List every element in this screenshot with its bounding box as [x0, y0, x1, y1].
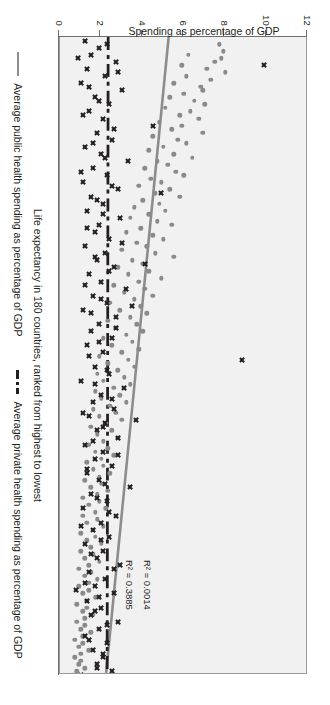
data-point-public — [167, 95, 172, 100]
data-point-public — [81, 591, 86, 596]
data-point-public — [105, 361, 110, 366]
data-point-private — [96, 594, 102, 600]
data-point-private — [88, 551, 94, 557]
data-point-private — [78, 80, 84, 86]
data-point-private — [84, 598, 90, 604]
data-point-public — [78, 531, 83, 536]
data-point-public — [109, 343, 114, 348]
plot-area — [59, 36, 307, 674]
legend-item-public[interactable]: Average public health spending as percen… — [12, 52, 24, 336]
data-point-private — [80, 410, 86, 416]
data-point-private — [82, 541, 88, 547]
data-point-private — [134, 417, 140, 423]
data-point-private — [94, 130, 100, 136]
data-point-public — [202, 102, 207, 107]
data-point-private — [88, 491, 94, 497]
data-point-private — [74, 587, 80, 593]
data-point-public — [76, 644, 81, 649]
data-point-public — [184, 74, 189, 79]
data-point-public — [72, 637, 77, 642]
data-point-public — [155, 159, 160, 164]
data-point-public — [95, 371, 100, 376]
data-point-public — [136, 347, 141, 352]
data-point-private — [90, 647, 96, 653]
data-point-private — [84, 466, 90, 472]
data-point-public — [132, 297, 137, 302]
legend-item-private[interactable]: Average private health spending as perce… — [12, 370, 24, 658]
data-point-private — [96, 45, 102, 51]
data-point-private — [111, 590, 117, 596]
data-point-public — [93, 449, 98, 454]
data-point-public — [118, 393, 123, 398]
data-point-public — [93, 534, 98, 539]
data-point-private — [115, 435, 121, 441]
data-point-public — [140, 198, 145, 203]
data-point-public — [184, 141, 189, 146]
data-point-private — [109, 396, 115, 402]
data-point-private — [115, 452, 121, 458]
data-point-public — [101, 464, 106, 469]
data-point-public — [161, 145, 166, 150]
data-point-private — [88, 328, 94, 334]
data-point-public — [83, 556, 88, 561]
data-point-public — [112, 386, 117, 391]
data-point-private — [84, 66, 90, 72]
data-point-public — [112, 283, 117, 288]
data-point-private — [92, 583, 98, 589]
data-point-private — [80, 307, 86, 313]
data-point-public — [89, 630, 94, 635]
data-point-private — [92, 381, 98, 387]
data-point-private — [88, 52, 94, 58]
data-point-public — [120, 350, 125, 355]
trend-line-public — [106, 37, 169, 673]
r2-annotation-private: R² = 0.0014 — [142, 560, 153, 610]
data-point-public — [124, 332, 129, 337]
data-point-private — [105, 41, 111, 47]
data-point-public — [213, 60, 218, 65]
chart-legend: Average public health spending as percen… — [12, 36, 24, 675]
data-point-public — [151, 233, 156, 238]
data-point-public — [130, 340, 135, 345]
data-point-private — [82, 243, 88, 249]
data-point-private — [103, 155, 109, 161]
data-point-public — [163, 208, 168, 213]
data-point-private — [98, 296, 104, 302]
data-point-private — [100, 424, 106, 430]
data-point-public — [89, 485, 94, 490]
data-point-public — [87, 503, 92, 508]
data-point-public — [176, 137, 181, 142]
data-point-private — [150, 123, 156, 129]
data-point-private — [76, 55, 82, 61]
data-point-private — [86, 413, 92, 419]
data-point-public — [124, 400, 129, 405]
data-point-private — [92, 229, 98, 235]
data-point-public — [147, 212, 152, 217]
data-point-private — [98, 392, 104, 398]
data-point-public — [153, 251, 158, 256]
data-point-public — [182, 91, 187, 96]
data-point-public — [132, 364, 137, 369]
data-point-private — [86, 353, 92, 359]
data-point-private — [96, 626, 102, 632]
data-point-private — [100, 211, 106, 217]
legend-label-public: Average public health spending as percen… — [12, 83, 24, 336]
data-point-private — [98, 537, 104, 543]
data-point-private — [105, 300, 111, 306]
data-point-private — [86, 271, 92, 277]
data-point-private — [158, 190, 164, 196]
data-point-private — [115, 69, 121, 75]
data-point-public — [223, 70, 228, 75]
data-point-public — [122, 375, 127, 380]
data-point-public — [169, 223, 174, 228]
value-axis-title: Spending as percentage of GDP — [89, 25, 319, 37]
data-point-public — [151, 293, 156, 298]
data-point-public — [171, 152, 176, 157]
data-point-private — [84, 342, 90, 348]
category-axis-title: Life expectancy in 180 countries, ranked… — [32, 36, 44, 675]
data-point-public — [105, 318, 110, 323]
data-point-private — [107, 236, 113, 242]
data-point-private — [94, 197, 100, 203]
data-point-public — [83, 478, 88, 483]
data-point-public — [186, 52, 191, 57]
value-axis-tick-label: 0 — [54, 21, 65, 26]
